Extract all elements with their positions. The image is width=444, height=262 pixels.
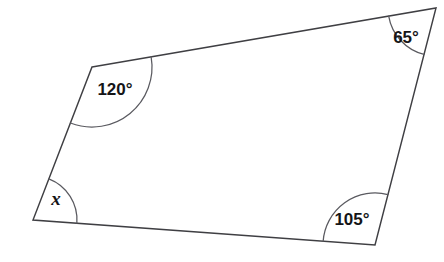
angle-label-65: 65° — [393, 28, 419, 47]
angle-label-x: x — [50, 188, 61, 209]
angle-label-105: 105° — [334, 210, 369, 229]
angle-label-120: 120° — [97, 80, 132, 99]
quadrilateral-diagram: 120° 65° 105° x — [0, 0, 444, 262]
geometry-figure: 120° 65° 105° x — [0, 0, 444, 262]
